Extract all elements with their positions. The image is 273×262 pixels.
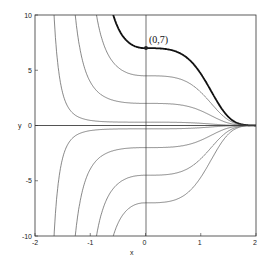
svg-text:-1: -1 [87, 239, 93, 246]
svg-text:10: 10 [24, 12, 32, 19]
solution-curve [53, 0, 256, 126]
svg-text:1: 1 [198, 239, 202, 246]
svg-text:-10: -10 [22, 233, 32, 240]
solution-curve [53, 126, 256, 254]
solution-curve [74, 0, 256, 125]
svg-text:5: 5 [28, 67, 32, 74]
y-axis-label: y [18, 122, 22, 130]
solution-curve [94, 0, 256, 126]
svg-text:-2: -2 [32, 239, 38, 246]
solution-curves [35, 0, 256, 256]
svg-text:0: 0 [28, 122, 32, 129]
solution-curve [109, 0, 257, 125]
slope-field-chart: -2-10121050-5-10 x y (0,7) [0, 0, 273, 262]
initial-point-marker [144, 46, 148, 50]
solution-curve [74, 126, 256, 254]
svg-text:-5: -5 [26, 177, 32, 184]
svg-text:0: 0 [143, 239, 147, 246]
solution-curve [109, 126, 257, 257]
x-axis-label: x [130, 249, 134, 256]
solution-curve [94, 126, 256, 257]
svg-text:2: 2 [253, 239, 257, 246]
initial-point-annotation: (0,7) [149, 34, 168, 46]
